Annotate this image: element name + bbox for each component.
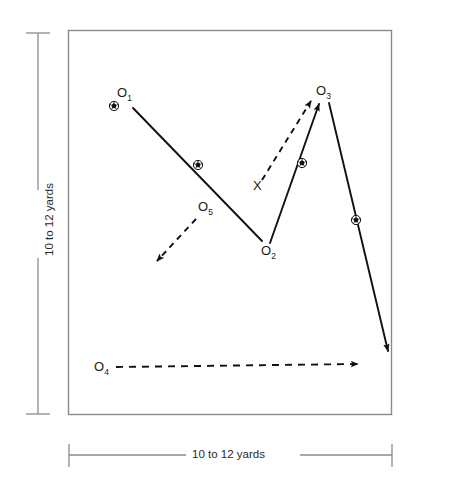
player-label-o1: O1 [117,86,132,102]
ball-on-pass-o1-o2 [193,160,202,169]
vertical-measurement-label: 10 to 12 yards [44,183,56,256]
drill-diagram: O1 O2 O3 O4 O5 X 10 to 12 yards 10 to 12… [0,0,464,493]
player-sub-o1: 1 [127,93,132,103]
ball-at-o1 [109,101,118,110]
player-letter-o1: O [117,85,127,100]
diagram-canvas [0,0,464,493]
player-letter-o4: O [94,359,104,374]
ball-on-shot-o3 [351,215,360,224]
player-label-x: X [253,179,262,195]
player-sub-o5: 5 [208,207,213,217]
player-letter-o3: O [316,83,326,98]
player-letter-o5: O [198,199,208,214]
player-letter-x: X [253,178,262,193]
player-letter-o2: O [261,243,271,258]
player-label-o5: O5 [198,200,213,216]
player-sub-o4: 4 [104,367,109,377]
player-label-o2: O2 [261,244,276,260]
player-label-o3: O3 [316,84,331,100]
player-sub-o2: 2 [271,251,276,261]
player-sub-o3: 3 [326,91,331,101]
horizontal-measurement-label: 10 to 12 yards [192,449,265,461]
ball-on-pass-o2-o3 [297,158,306,167]
player-label-o4: O4 [94,360,109,376]
